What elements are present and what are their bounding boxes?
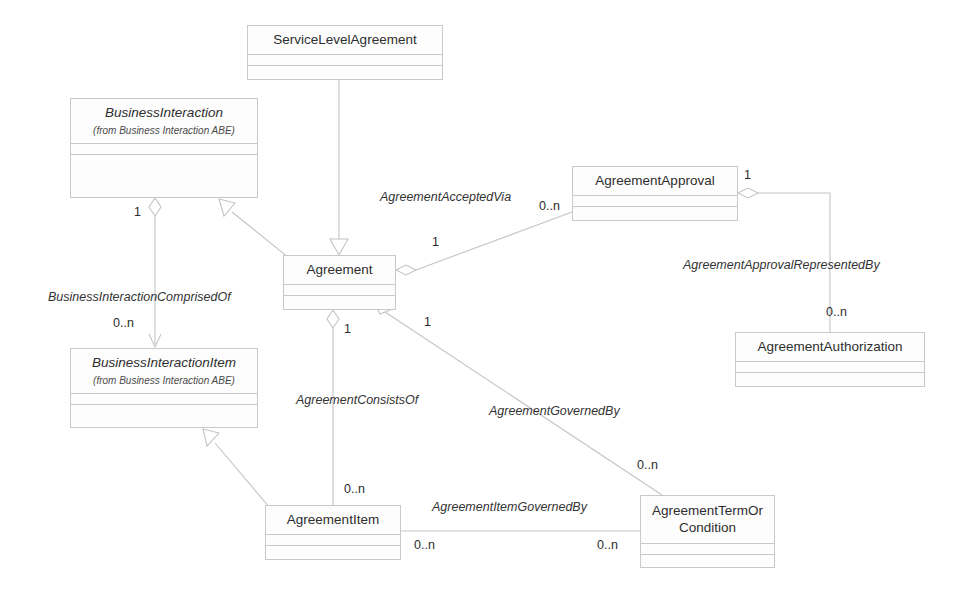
class-package-note: (from Business Interaction ABE) [77,374,251,387]
attribute-compartment [71,394,257,405]
relationship-agreement-consists-of-item [327,310,339,505]
uml-class-diagram: ServiceLevelAgreement BusinessInteractio… [0,0,975,594]
name-compartment: AgreementAuthorization [736,333,924,362]
multiplicity-agreement-item-top: 0..n [344,482,365,496]
uml-class-service-level-agreement[interactable]: ServiceLevelAgreement [247,25,443,80]
multiplicity-approval-source: 0..n [539,199,560,213]
name-compartment: AgreementItem [266,506,400,535]
class-name: AgreementItem [272,511,394,528]
association-label-agreement-item-governed-by: AgreementItemGovernedBy [432,500,587,514]
multiplicity-business-interaction-item: 0..n [113,316,134,330]
name-compartment: BusinessInteractionItem (from Business I… [71,349,257,394]
class-name: AgreementAuthorization [742,338,918,355]
uml-class-agreement-approval[interactable]: AgreementApproval [572,166,738,221]
relationship-agreement-accepted-via-approval [396,212,572,275]
attribute-compartment [266,535,400,546]
class-name: ServiceLevelAgreement [254,31,436,48]
class-name: AgreementApproval [579,172,731,189]
attribute-compartment [71,144,257,155]
class-name: BusinessInteractionItem [77,354,251,371]
attribute-compartment [284,285,395,296]
multiplicity-term-or-condition-bottom: 0..n [597,538,618,552]
association-label-agreement-governed-by: AgreementGovernedBy [489,404,620,418]
name-compartment: AgreementApproval [573,167,737,196]
multiplicity-agreement-consists-of: 1 [344,322,351,336]
uml-class-agreement-item[interactable]: AgreementItem [265,505,401,560]
multiplicity-bi-to-bii: 1 [134,205,141,219]
relationship-agreementitem-generalizes-bii [203,429,270,508]
multiplicity-agreement-item-bottom: 0..n [414,538,435,552]
class-package-note: (from Business Interaction ABE) [77,124,251,137]
uml-class-business-interaction[interactable]: BusinessInteraction (from Business Inter… [70,98,258,198]
multiplicity-agreement-governed-by: 1 [424,315,431,329]
multiplicity-term-or-condition-governed: 0..n [637,458,658,472]
attribute-compartment [641,544,774,555]
association-label-agreement-consists-of: AgreementConsistsOf [296,393,418,407]
uml-class-business-interaction-item[interactable]: BusinessInteractionItem (from Business I… [70,348,258,428]
relationship-sla-generalizes-agreement [330,80,348,255]
uml-class-agreement[interactable]: Agreement [283,255,396,310]
relationship-agreement-generalizes-bi [219,199,288,257]
class-name: AgreementTermOr Condition [647,502,768,536]
class-name: BusinessInteraction [77,104,251,121]
association-label-agreement-approval-represented-by: AgreementApprovalRepresentedBy [683,258,880,272]
attribute-compartment [736,362,924,373]
uml-class-agreement-authorization[interactable]: AgreementAuthorization [735,332,925,387]
multiplicity-authorization: 0..n [826,305,847,319]
uml-class-agreement-term-or-condition[interactable]: AgreementTermOr Condition [640,495,775,568]
class-name: Agreement [290,261,389,278]
attribute-compartment [573,196,737,207]
name-compartment: ServiceLevelAgreement [248,26,442,55]
name-compartment: AgreementTermOr Condition [641,496,774,544]
multiplicity-approval-target: 1 [744,168,751,182]
attribute-compartment [248,55,442,66]
association-label-business-interaction-comprised-of: BusinessInteractionComprisedOf [48,290,231,304]
name-compartment: BusinessInteraction (from Business Inter… [71,99,257,144]
relationship-bi-comprised-of-bii [149,198,161,347]
association-label-agreement-accepted-via: AgreementAcceptedVia [380,190,511,204]
multiplicity-agreement-approval: 1 [432,235,439,249]
name-compartment: Agreement [284,256,395,285]
